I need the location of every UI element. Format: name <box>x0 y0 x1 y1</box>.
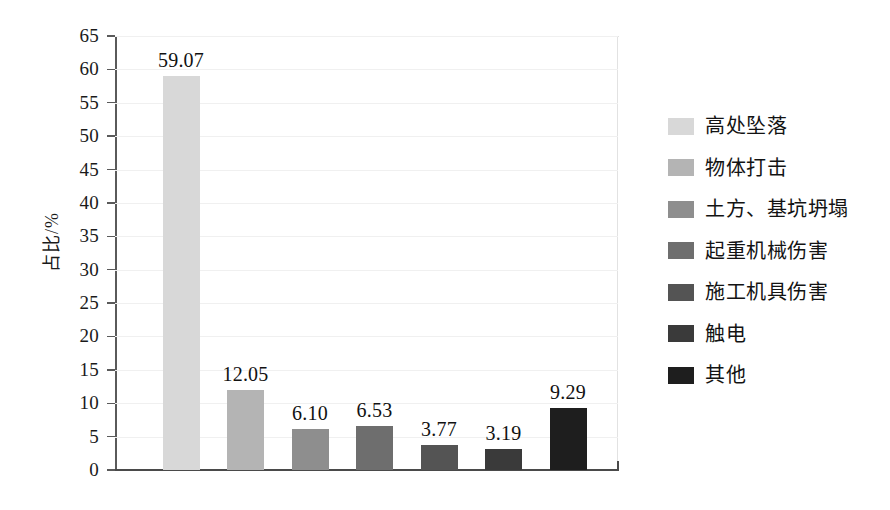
y-axis-tick-mark <box>107 369 115 370</box>
y-axis-tick-label: 5 <box>43 427 99 446</box>
y-axis-tick-label: 10 <box>43 393 99 412</box>
bar-value-label: 3.19 <box>459 423 549 443</box>
legend-item-label: 其他 <box>705 364 746 386</box>
y-axis-tick-label: 35 <box>43 226 99 245</box>
bar-value-label: 59.07 <box>136 50 226 70</box>
bar-value-label: 12.05 <box>201 364 291 384</box>
bar <box>485 449 522 470</box>
legend-color-swatch <box>668 367 694 384</box>
y-axis-tick-mark <box>107 236 115 237</box>
y-axis-tick-mark <box>107 403 115 404</box>
legend-color-swatch <box>668 201 694 218</box>
legend-item: 触电 <box>668 320 883 348</box>
y-axis-tick-mark <box>107 336 115 337</box>
y-axis-tick-label: 0 <box>43 460 99 479</box>
legend: 高处坠落物体打击土方、基坑坍塌起重机械伤害施工机具伤害触电其他 <box>668 112 883 403</box>
plot-area: 59.0712.056.106.533.773.199.29 <box>115 36 618 470</box>
bar <box>356 426 393 470</box>
legend-color-swatch <box>668 325 694 342</box>
bar <box>292 429 329 470</box>
y-axis-tick-mark <box>107 169 115 170</box>
y-axis-tick-label: 60 <box>43 59 99 78</box>
legend-item-label: 高处坠落 <box>705 115 787 137</box>
legend-item-label: 起重机械伤害 <box>705 240 828 262</box>
legend-item-label: 物体打击 <box>705 157 787 179</box>
y-axis-tick-mark <box>107 102 115 103</box>
legend-item: 其他 <box>668 361 883 389</box>
bar-chart-figure: 占比/% 05101520253035404550556065 59.0712.… <box>0 0 890 510</box>
legend-item: 物体打击 <box>668 154 883 182</box>
gridline <box>115 36 618 37</box>
y-axis-tick-label: 45 <box>43 160 99 179</box>
bar <box>421 445 458 470</box>
y-axis-tick-mark <box>107 436 115 437</box>
legend-item: 土方、基坑坍塌 <box>668 195 883 223</box>
y-axis-tick-label: 15 <box>43 360 99 379</box>
y-axis-tick-mark <box>107 135 115 136</box>
legend-item: 起重机械伤害 <box>668 237 883 265</box>
legend-color-swatch <box>668 118 694 135</box>
legend-color-swatch <box>668 159 694 176</box>
y-axis-tick-label: 50 <box>43 126 99 145</box>
y-axis-tick-label: 55 <box>43 93 99 112</box>
y-axis-tick-label: 20 <box>43 326 99 345</box>
legend-item-label: 土方、基坑坍塌 <box>705 198 849 220</box>
bar <box>163 76 200 470</box>
bar <box>227 390 264 470</box>
y-axis-tick-label: 40 <box>43 193 99 212</box>
legend-item-label: 施工机具伤害 <box>705 281 828 303</box>
legend-color-swatch <box>668 242 694 259</box>
legend-item: 高处坠落 <box>668 112 883 140</box>
y-axis-tick-mark <box>107 302 115 303</box>
y-axis-tick-label: 30 <box>43 260 99 279</box>
legend-color-swatch <box>668 284 694 301</box>
y-axis-tick-mark <box>107 35 115 36</box>
y-axis-tick-label: 65 <box>43 26 99 45</box>
y-axis-tick-mark <box>107 202 115 203</box>
y-axis-tick-mark <box>107 269 115 270</box>
bar <box>550 408 587 470</box>
y-axis-tick-mark <box>107 69 115 70</box>
legend-item: 施工机具伤害 <box>668 278 883 306</box>
y-axis-tick-label: 25 <box>43 293 99 312</box>
y-axis-tick-mark <box>107 469 115 470</box>
legend-item-label: 触电 <box>705 323 746 345</box>
bar-value-label: 6.53 <box>330 400 420 420</box>
bar-value-label: 9.29 <box>523 382 613 402</box>
